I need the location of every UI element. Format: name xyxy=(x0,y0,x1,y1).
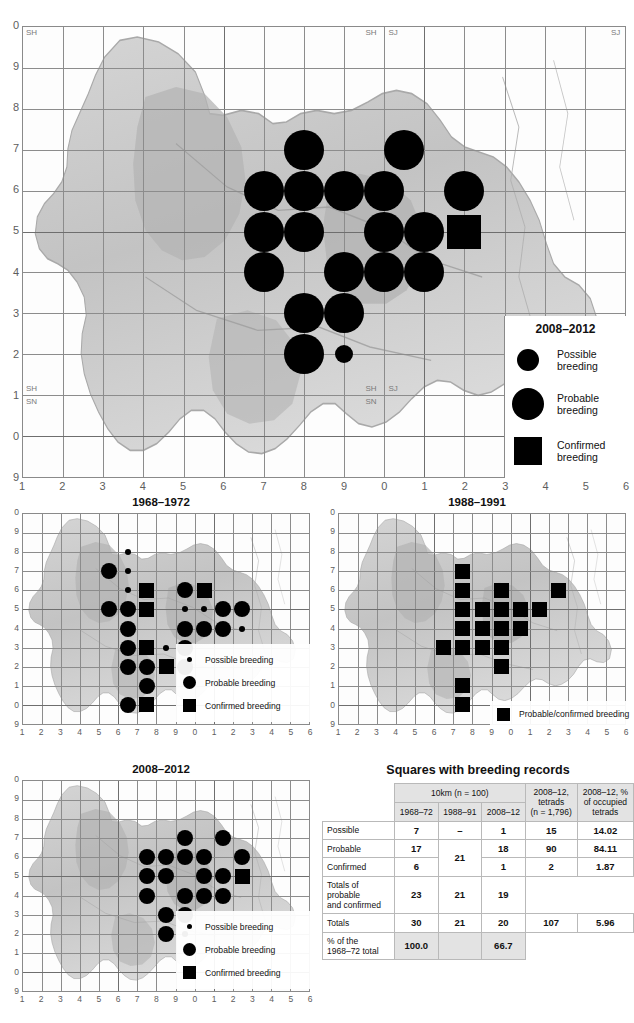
grid-line-horizontal xyxy=(339,686,625,687)
cell-percent: 1.87 xyxy=(577,858,633,876)
probable-breeding-marker xyxy=(120,640,136,656)
main-legend-probable-line1: Probable xyxy=(557,392,599,404)
grid-line-horizontal xyxy=(23,150,625,151)
map-1988-1991-legend: Probable/confirmed breeding xyxy=(490,701,626,725)
x-axis-tick-label: 1 xyxy=(14,728,30,737)
x-axis-tick-label: 5 xyxy=(283,728,299,737)
confirmed-breeding-marker xyxy=(455,678,470,693)
main-legend-probable-line2: breeding xyxy=(557,404,598,416)
corner-cell-2 xyxy=(323,802,395,821)
main-legend-confirmed-line1: Confirmed xyxy=(557,439,605,451)
map-1988-1991: 1988–1991 1234567890123456098765432109Pr… xyxy=(322,496,632,746)
confirmed-breeding-marker xyxy=(513,621,528,636)
x-axis-tick-label: 1 xyxy=(417,481,433,492)
x-axis-tick-label: 5 xyxy=(407,728,423,737)
probable-breeding-marker xyxy=(139,659,155,675)
x-axis-tick-label: 6 xyxy=(110,995,126,1004)
grid-line-horizontal xyxy=(339,552,625,553)
probable-breeding-marker xyxy=(404,212,444,252)
col-header-tetrads: 2008–12,tetrads(n = 1,796) xyxy=(525,784,577,822)
legend-row-confirmed-breeding: Confirmed breeding xyxy=(182,694,280,717)
y-axis-tick-label: 9 xyxy=(6,987,19,996)
y-axis-tick-label: 9 xyxy=(6,794,19,803)
x-axis-tick-label: 3 xyxy=(52,995,68,1004)
x-axis-tick-label: 2 xyxy=(225,728,241,737)
x-axis-tick-label: 5 xyxy=(175,481,191,492)
y-axis-tick-label: 9 xyxy=(6,720,19,729)
grid-line-vertical xyxy=(99,781,100,991)
table-row: % of the1968–72 total100.066.7 xyxy=(323,932,634,959)
grid-line-vertical xyxy=(118,514,119,724)
y-axis-tick-label: 2 xyxy=(6,349,19,360)
x-axis-tick-label: 1 xyxy=(14,995,30,1004)
x-axis-tick-label: 6 xyxy=(110,728,126,737)
map-1968-1972-legend: Possible breedingProbable breedingConfir… xyxy=(176,644,310,722)
y-axis-tick-label: 9 xyxy=(322,527,335,536)
x-axis-tick-label: 2 xyxy=(33,728,49,737)
main-map-legend: 2008–2012 Possible breeding Probable bre… xyxy=(504,316,626,478)
probable-breeding-marker xyxy=(139,888,155,904)
x-axis-tick-label: 2 xyxy=(225,995,241,1004)
probable-breeding-marker xyxy=(177,888,193,904)
grid-line-vertical xyxy=(61,781,62,991)
grid-line-vertical xyxy=(568,514,569,724)
probable-breeding-marker xyxy=(284,212,324,252)
x-axis-tick-label: 3 xyxy=(368,728,384,737)
grid-line-vertical xyxy=(137,514,138,724)
grid-line-vertical xyxy=(99,514,100,724)
x-axis-tick-label: 6 xyxy=(302,995,318,1004)
x-axis-tick-label: 7 xyxy=(256,481,272,492)
y-axis-tick-label: 5 xyxy=(6,225,19,236)
stats-table-panel: Squares with breeding records 10km (n = … xyxy=(322,763,634,1021)
probable-breeding-marker xyxy=(158,907,174,923)
grid-line-horizontal xyxy=(23,800,309,801)
possible-breeding-marker xyxy=(125,549,131,555)
cropped-top-text xyxy=(0,0,634,12)
possible-breeding-symbol-icon xyxy=(187,657,192,662)
legend-row-probable-breeding: Probable breeding xyxy=(182,938,275,961)
cell-1968-72: 23 xyxy=(395,876,439,914)
row-label: Possible xyxy=(323,821,395,839)
grid-line-horizontal xyxy=(23,232,625,233)
row-label: % of the1968–72 total xyxy=(323,932,395,959)
probable-breeding-marker xyxy=(384,130,424,170)
x-axis-tick-label: 5 xyxy=(599,728,615,737)
y-axis-tick-label: 2 xyxy=(322,662,335,671)
grid-sheet-code: SJ xyxy=(388,29,397,37)
y-axis-tick-label: 6 xyxy=(6,184,19,195)
y-axis-tick-label: 0 xyxy=(322,508,335,517)
page-root: SHSHSJSJSHSNSHSJSN 2008–2012 Possible br… xyxy=(0,0,634,1023)
probable-breeding-symbol-icon xyxy=(183,943,196,956)
probable-breeding-marker xyxy=(120,621,136,637)
grid-line-horizontal xyxy=(23,838,309,839)
main-legend-title: 2008–2012 xyxy=(505,322,626,336)
cell-1968-72: 100.0 xyxy=(395,932,439,959)
probable-breeding-marker xyxy=(196,888,212,904)
x-axis-tick-label: 7 xyxy=(129,995,145,1004)
row-label: Probable xyxy=(323,839,395,857)
cell-1968-72: 30 xyxy=(395,914,439,932)
legend-label: Confirmed breeding xyxy=(205,701,280,711)
confirmed-breeding-marker xyxy=(455,621,470,636)
grid-line-vertical xyxy=(80,781,81,991)
cell-2008-12: 19 xyxy=(482,876,526,914)
stats-table-title: Squares with breeding records xyxy=(322,763,634,777)
y-axis-tick-label: 8 xyxy=(322,547,335,556)
confirmed-breeding-marker xyxy=(455,564,470,579)
probable-breeding-marker xyxy=(284,130,324,170)
y-axis-tick-label: 0 xyxy=(322,701,335,710)
y-axis-tick-label: 8 xyxy=(6,547,19,556)
grid-line-vertical xyxy=(42,781,43,991)
y-axis-tick-label: 7 xyxy=(322,566,335,575)
grid-line-horizontal xyxy=(339,571,625,572)
probable-breeding-marker xyxy=(215,621,231,637)
grid-line-vertical xyxy=(156,514,157,724)
y-axis-tick-label: 3 xyxy=(6,308,19,319)
confirmed-breeding-marker xyxy=(447,215,481,249)
legend-row-probable-breeding: Probable breeding xyxy=(182,671,275,694)
table-row: Totals of probableand confirmed232119 xyxy=(323,876,634,914)
confirmed-breeding-marker xyxy=(455,697,470,712)
y-axis-tick-label: 8 xyxy=(6,814,19,823)
x-axis-tick-label: 5 xyxy=(91,728,107,737)
col-header-percent: 2008–12, %of occupiedtetrads xyxy=(577,784,633,822)
